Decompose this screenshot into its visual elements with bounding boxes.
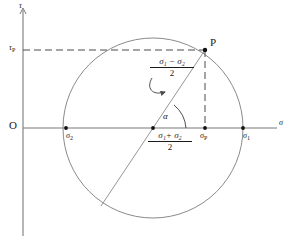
sigma-1-label: σ1 — [243, 132, 250, 140]
alpha-label: α — [163, 112, 168, 121]
center-fraction-denominator: 2 — [148, 143, 192, 152]
origin-label: O — [9, 120, 17, 131]
sigma-1-subscript: 1 — [247, 135, 250, 141]
point-center — [151, 126, 155, 130]
radius-fraction-label: σ₁ − σ₂ 2 — [150, 57, 194, 79]
mohrs-circle-figure: τ σ O τP σ2 σP σ1 P α σ₁ − σ₂ 2 σ₁+ σ₂ 2 — [0, 0, 294, 240]
tau-p-label: τP — [9, 44, 15, 52]
tau-p-subscript: P — [12, 47, 15, 53]
point-p — [203, 48, 207, 52]
sigma-2-label: σ2 — [66, 132, 73, 140]
point-sigma-p — [203, 126, 207, 130]
point-p-label: P — [210, 37, 216, 48]
radius-leader-arrow — [150, 78, 165, 93]
point-sigma-2 — [64, 126, 68, 130]
sigma-p-subscript: P — [204, 135, 207, 141]
alpha-angle-arc — [174, 105, 186, 128]
sigma-p-label: σP — [200, 132, 207, 140]
sigma-2-subscript: 2 — [70, 135, 73, 141]
point-sigma-1 — [241, 126, 245, 130]
sigma-axis-label: σ — [279, 119, 283, 127]
center-fraction-numerator: σ₁+ σ₂ — [148, 131, 192, 140]
radius-fraction-numerator: σ₁ − σ₂ — [150, 57, 194, 66]
center-fraction-label: σ₁+ σ₂ 2 — [148, 131, 192, 153]
diagram-canvas — [0, 0, 294, 240]
tau-axis-label: τ — [19, 2, 22, 10]
radius-fraction-denominator: 2 — [150, 69, 194, 78]
